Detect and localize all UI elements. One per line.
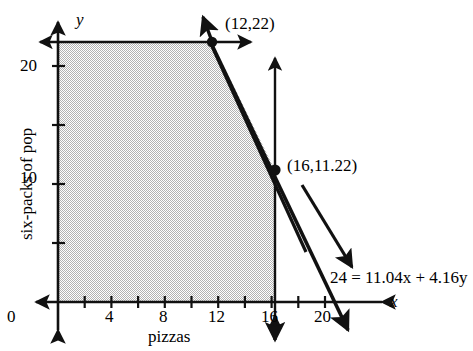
y-axis-name: y (76, 11, 84, 28)
x-tick-label-20: 20 (314, 308, 331, 325)
feasible-region-shading (58, 42, 275, 302)
y-tick-label-0: 0 (7, 308, 16, 325)
graph-canvas (0, 0, 473, 351)
x-tick-label-8: 8 (159, 308, 168, 325)
graph-figure: y x 20 10 0 4 8 12 16 20 pizzas six-pack… (0, 0, 473, 351)
gradient-arrow-lower (302, 185, 352, 267)
vertex-point-16-11 (269, 164, 280, 175)
x-axis-title: pizzas (148, 328, 190, 345)
y-axis-title: six-packs of pop (18, 128, 35, 240)
objective-equation-label: 24 = 11.04x + 4.16y (330, 269, 468, 286)
vertex-point-12-22 (207, 37, 217, 47)
vertex-label-12-22: (12,22) (225, 15, 275, 32)
x-tick-label-16: 16 (261, 308, 278, 325)
x-axis-name: x (390, 293, 398, 310)
x-tick-label-12: 12 (208, 308, 225, 325)
x-tick-label-4: 4 (105, 308, 114, 325)
vertex-label-16-11: (16,11.22) (287, 157, 357, 174)
y-tick-label-20: 20 (20, 57, 37, 74)
